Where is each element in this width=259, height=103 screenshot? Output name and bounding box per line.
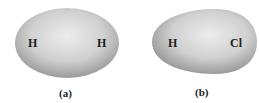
caption-b: (b): [195, 86, 209, 99]
atom-label-h: H: [168, 36, 178, 50]
panel-a: H H (a): [15, 8, 119, 100]
panel-b: H Cl (b): [152, 9, 257, 99]
electron-cloud-diagram: H H (a) H Cl (b): [0, 0, 259, 103]
atom-label-h-left: H: [28, 36, 38, 50]
atom-label-h-right: H: [97, 36, 107, 50]
atom-label-cl: Cl: [230, 36, 243, 50]
caption-a: (a): [59, 87, 72, 100]
